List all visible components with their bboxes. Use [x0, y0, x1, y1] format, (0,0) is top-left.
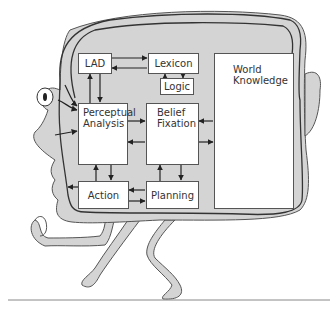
ear	[305, 72, 320, 136]
node-world-knowledge: World Knowledge	[214, 53, 294, 209]
node-action-label: Action	[88, 190, 119, 201]
node-lexicon: Lexicon	[148, 53, 199, 74]
node-logic-label: Logic	[164, 81, 190, 92]
node-lad-label: LAD	[85, 58, 105, 69]
node-world-label-2: Knowledge	[233, 75, 293, 86]
node-lad: LAD	[78, 53, 112, 74]
eye-icon	[37, 88, 53, 106]
node-belief-label-2: Fixation	[157, 118, 198, 129]
node-perceptual-label-1: Perceptual	[83, 107, 127, 118]
legs	[31, 216, 181, 299]
front-leg	[147, 220, 182, 299]
node-perceptual-label-2: Analysis	[83, 118, 127, 129]
node-lexicon-label: Lexicon	[154, 58, 192, 69]
node-logic: Logic	[160, 78, 194, 95]
node-action: Action	[78, 181, 129, 209]
node-belief-fixation: Belief Fixation	[146, 103, 199, 165]
node-belief-label-1: Belief	[157, 107, 198, 118]
node-planning: Planning	[146, 181, 199, 209]
node-world-label-1: World	[233, 64, 293, 75]
node-planning-label: Planning	[151, 190, 194, 201]
node-perceptual-analysis: Perceptual Analysis	[78, 103, 128, 165]
